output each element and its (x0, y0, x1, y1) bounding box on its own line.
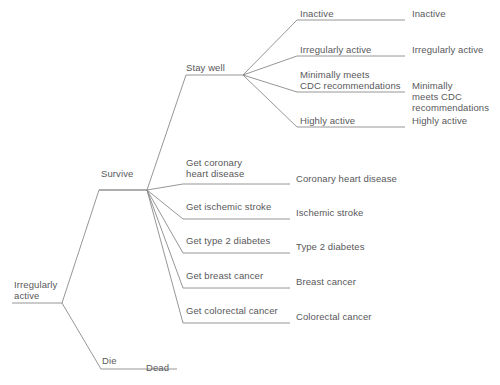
branch-label-get-coronary-heart-disease: Get coronary heart disease (186, 157, 244, 179)
branch-label-irregularly-active: Irregularly active (300, 44, 372, 55)
edge-root-to-die (62, 303, 101, 369)
branch-label-get-colorectal-cancer: Get colorectal cancer (186, 305, 278, 316)
node-label-die: Die (102, 355, 117, 366)
edge-staywell-irregularly-active (243, 56, 297, 75)
terminal-label-colorectal-cancer: Colorectal cancer (296, 311, 372, 322)
terminal-label-irregularly-active: Irregularly active (412, 44, 484, 55)
terminal-label-dead: Dead (146, 362, 169, 373)
node-label-root: Irregularly active (14, 279, 57, 301)
edge-staywell-inactive (243, 20, 297, 75)
edge-survive-to-staywell (147, 75, 186, 190)
branch-label-get-ischemic-stroke: Get ischemic stroke (186, 201, 271, 212)
node-label-survive: Survive (101, 168, 133, 179)
edge-survive-coronary (147, 184, 183, 190)
terminal-label-breast-cancer: Breast cancer (296, 276, 356, 287)
branch-label-get-type-2-diabetes: Get type 2 diabetes (186, 235, 270, 246)
edge-root-to-survive (62, 190, 99, 303)
decision-tree-canvas (0, 0, 500, 385)
terminal-label-type-2-diabetes: Type 2 diabetes (296, 241, 365, 252)
terminal-label-coronary-heart-disease: Coronary heart disease (296, 173, 397, 184)
terminal-label-inactive: Inactive (412, 8, 446, 19)
branch-label-minimally-meets-cdc: Minimally meets CDC recommendations (300, 69, 401, 91)
edge-survive-colorectal-cancer (147, 190, 183, 323)
branch-label-highly-active: Highly active (300, 115, 355, 126)
edge-staywell-highly-active (243, 75, 297, 127)
branch-label-get-breast-cancer: Get breast cancer (186, 270, 263, 281)
node-label-stay-well: Stay well (186, 62, 225, 73)
branch-label-inactive: Inactive (300, 8, 334, 19)
edge-staywell-minimally-meets (243, 75, 297, 92)
terminal-label-minimally-meets-cdc: Minimally meets CDC recommendations (412, 80, 489, 113)
terminal-label-ischemic-stroke: Ischemic stroke (296, 207, 364, 218)
terminal-label-highly-active: Highly active (412, 115, 467, 126)
edge-survive-diabetes (147, 190, 183, 253)
